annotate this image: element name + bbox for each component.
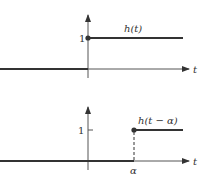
top-function-label: h(t) [124, 23, 142, 34]
bottom-function-label: h(t − α) [138, 115, 178, 126]
bottom-y-tick-label: 1 [78, 125, 84, 136]
bottom-plot: 1 h(t − α) t α [0, 107, 198, 176]
step-function-diagram: 1 h(t) t 1 h(t − α) t α [0, 0, 208, 186]
bottom-step-dot [131, 127, 136, 132]
top-y-tick-label: 1 [79, 33, 85, 44]
alpha-label: α [130, 165, 137, 176]
top-x-axis-label: t [193, 64, 198, 75]
top-step-dot [85, 35, 90, 40]
bottom-x-axis-label: t [193, 156, 198, 167]
top-plot: 1 h(t) t [0, 15, 198, 78]
